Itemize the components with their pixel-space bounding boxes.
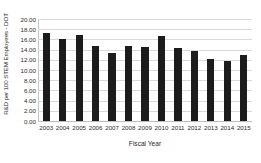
x-axis-tick-labels: 2003200420052006200720082009201020112012… [38, 123, 252, 133]
bar [158, 36, 165, 121]
x-axis-tick-label: 2008 [120, 123, 136, 132]
x-axis-tick-label: 2015 [236, 123, 252, 132]
bar [174, 48, 181, 121]
x-axis-tick-label: 2003 [38, 123, 54, 132]
bar-chart-figure: R&D per 100 STEM Employees - DOT 0.002.0… [0, 0, 261, 163]
x-axis-tick-label: 2007 [104, 123, 120, 132]
bar [76, 35, 83, 121]
bar [108, 53, 115, 121]
x-axis-tick-label: 2006 [87, 123, 103, 132]
x-axis-title: Fiscal Year [38, 139, 252, 149]
x-axis-tick-label: 2013 [203, 123, 219, 132]
bar [92, 46, 99, 121]
bar [240, 55, 247, 121]
x-axis-tick-label: 2014 [219, 123, 235, 132]
bar [125, 46, 132, 121]
y-axis-tick-label: 18.00 [2, 26, 36, 33]
bar [224, 61, 231, 121]
bar [59, 39, 66, 121]
plot-area [38, 19, 252, 121]
y-axis-tick-label: 8.00 [2, 77, 36, 84]
x-axis-tick-label: 2010 [153, 123, 169, 132]
x-axis-tick-label: 2009 [137, 123, 153, 132]
x-axis-tick-label: 2012 [186, 123, 202, 132]
bar [43, 33, 50, 121]
x-axis-tick-label: 2005 [71, 123, 87, 132]
y-axis-tick-label: 2.00 [2, 107, 36, 114]
x-axis-tick-label: 2011 [170, 123, 186, 132]
y-axis-tick-label: 6.00 [2, 87, 36, 94]
y-axis-tick-label: 12.00 [2, 56, 36, 63]
y-axis-tick-label: 4.00 [2, 97, 36, 104]
bar [207, 59, 214, 121]
y-axis-tick-label: 14.00 [2, 46, 36, 53]
bar [141, 47, 148, 121]
x-axis-tick-label: 2004 [54, 123, 70, 132]
bars-series [38, 19, 252, 121]
y-axis-tick-label: 0.00 [2, 118, 36, 125]
bar [191, 51, 198, 121]
y-axis-tick-label: 16.00 [2, 36, 36, 43]
y-axis-tick-label: 20.00 [2, 16, 36, 23]
gridline [38, 121, 252, 122]
y-axis-tick-labels: 0.002.004.006.008.0010.0012.0014.0016.00… [0, 0, 36, 163]
y-axis-tick-label: 10.00 [2, 67, 36, 74]
